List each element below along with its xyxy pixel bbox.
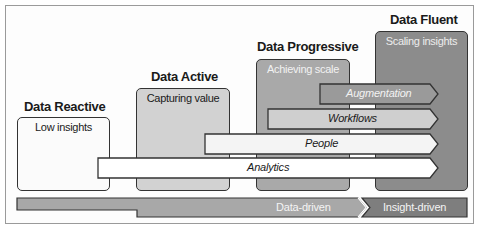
data-driven-label: Data-driven xyxy=(276,201,331,213)
people-label: People xyxy=(305,137,338,149)
insight-driven-label: Insight-driven xyxy=(383,201,446,213)
analytics-label: Analytics xyxy=(247,161,289,173)
workflows-label: Workflows xyxy=(328,112,377,124)
arrows-layer xyxy=(0,0,481,233)
augmentation-label: Augmentation xyxy=(346,87,411,99)
